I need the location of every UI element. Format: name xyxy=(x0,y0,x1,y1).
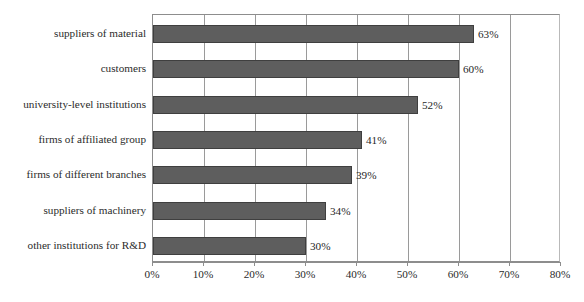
bar-value-label: 60% xyxy=(463,63,484,75)
bar xyxy=(153,202,326,220)
bar xyxy=(153,131,362,149)
bar-value-label: 63% xyxy=(478,28,499,40)
category-label: firms of affiliated group xyxy=(0,133,146,145)
x-axis-tick-label: 70% xyxy=(499,268,520,280)
category-label: suppliers of machinery xyxy=(0,204,146,216)
gridline xyxy=(459,15,460,261)
bar-value-label: 52% xyxy=(422,99,443,111)
gridline xyxy=(510,15,511,261)
bar-chart-figure: suppliers of materialcustomersuniversity… xyxy=(0,0,584,302)
category-label: suppliers of material xyxy=(0,27,146,39)
x-axis-tick-label: 10% xyxy=(193,268,214,280)
bar-value-label: 41% xyxy=(366,134,387,146)
plot-area: 63%60%52%41%39%34%30% xyxy=(152,14,560,262)
x-axis-tick xyxy=(254,262,255,266)
x-axis-tick-label: 0% xyxy=(145,268,160,280)
x-axis-tick-label: 80% xyxy=(550,268,571,280)
bar-value-label: 39% xyxy=(356,169,377,181)
category-label: university-level institutions xyxy=(0,98,146,110)
x-axis-tick xyxy=(152,262,153,266)
x-axis-tick-label: 60% xyxy=(448,268,469,280)
bar xyxy=(153,96,418,114)
category-label: firms of different branches xyxy=(0,168,146,180)
bar xyxy=(153,237,306,255)
bar-value-label: 30% xyxy=(310,240,331,252)
x-axis-tick xyxy=(458,262,459,266)
x-axis-tick xyxy=(509,262,510,266)
x-axis-tick xyxy=(356,262,357,266)
gridline xyxy=(408,15,409,261)
bar xyxy=(153,166,352,184)
x-axis-tick-label: 30% xyxy=(295,268,316,280)
x-axis-tick xyxy=(203,262,204,266)
x-axis-tick-label: 40% xyxy=(346,268,367,280)
bar xyxy=(153,25,474,43)
bar xyxy=(153,60,459,78)
x-axis-tick-label: 20% xyxy=(244,268,265,280)
x-axis-tick xyxy=(407,262,408,266)
x-axis-tick xyxy=(560,262,561,266)
x-axis-tick xyxy=(305,262,306,266)
category-axis-labels: suppliers of materialcustomersuniversity… xyxy=(0,14,146,262)
category-label: customers xyxy=(0,62,146,74)
figure-caption xyxy=(0,294,584,302)
x-axis-tick-label: 50% xyxy=(397,268,418,280)
bar-value-label: 34% xyxy=(330,205,351,217)
x-axis: 0%10%20%30%40%50%60%70%80% xyxy=(152,262,560,284)
category-label: other institutions for R&D xyxy=(0,239,146,251)
